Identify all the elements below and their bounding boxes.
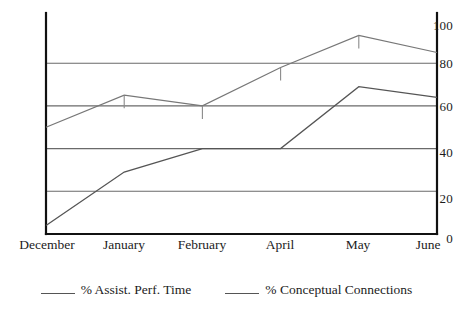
legend-label-conceptual-connections: % Conceptual Connections xyxy=(265,282,412,297)
x-tick-label-may: May xyxy=(330,238,386,252)
x-tick-label-february: February xyxy=(166,238,238,252)
x-tick-label-april: April xyxy=(250,238,310,252)
y-tick-label-60: 60 xyxy=(419,100,453,113)
legend-label-assist-perf-time: % Assist. Perf. Time xyxy=(81,282,192,297)
legend-entry-conceptual-connections[interactable]: % Conceptual Connections xyxy=(225,282,412,297)
x-tick-label-december: December xyxy=(8,238,86,252)
legend-entry-assist-perf-time[interactable]: % Assist. Perf. Time xyxy=(41,282,192,297)
line-chart-figure: 100 80 60 40 20 0 xyxy=(0,0,453,312)
y-tick-label-40: 40 xyxy=(419,146,453,159)
x-tick-label-june: June xyxy=(406,238,450,252)
series-line-assist-perf-time xyxy=(46,87,437,226)
y-tick-label-100: 100 xyxy=(419,19,453,32)
legend-line-swatch-icon xyxy=(41,293,75,294)
y-tick-label-20: 20 xyxy=(419,192,453,205)
plot-area-wrapper: 100 80 60 40 20 0 xyxy=(0,0,453,252)
y-tick-label-80: 80 xyxy=(419,57,453,70)
series-line-conceptual-connections xyxy=(46,35,437,127)
chart-canvas xyxy=(0,0,453,252)
axis-spines xyxy=(46,13,437,234)
gridlines xyxy=(46,63,437,191)
chart-legend: % Assist. Perf. Time % Conceptual Connec… xyxy=(0,282,453,306)
legend-line-swatch-icon xyxy=(225,293,259,294)
x-tick-label-january: January xyxy=(92,238,156,252)
